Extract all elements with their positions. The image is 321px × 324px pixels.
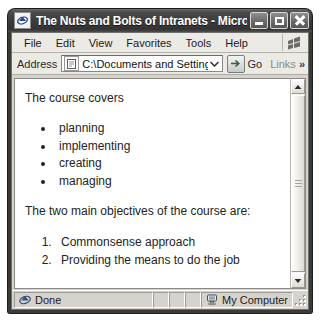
address-label: Address — [17, 58, 57, 70]
document-body: The course covers planning implementing … — [14, 78, 290, 289]
menu-item-edit[interactable]: Edit — [49, 36, 82, 50]
list-item: planning — [55, 120, 284, 138]
window-title: The Nuts and Bolts of Intranets - Micros… — [36, 14, 247, 28]
internet-explorer-icon — [18, 293, 32, 307]
chevron-down-icon[interactable] — [208, 56, 221, 71]
go-arrow-icon — [227, 55, 245, 73]
list-item: Commonsense approach — [55, 233, 284, 251]
minimize-button[interactable] — [250, 12, 268, 29]
scrollbar-grip — [295, 178, 302, 189]
status-message-pane: Done — [14, 292, 153, 308]
chevron-right-double-icon: » — [299, 60, 305, 68]
menu-item-file[interactable]: File — [17, 36, 49, 50]
go-button[interactable]: Go — [227, 55, 263, 73]
scroll-up-button[interactable] — [291, 79, 305, 94]
menu-item-help[interactable]: Help — [218, 36, 255, 50]
links-label: Links — [270, 58, 296, 70]
status-pane-2 — [169, 292, 185, 308]
page-icon — [64, 56, 79, 71]
menu-item-tools[interactable]: Tools — [179, 36, 219, 50]
spacer — [25, 110, 284, 120]
list-item: managing — [55, 173, 284, 191]
menu-divider — [282, 34, 283, 51]
spacer — [25, 223, 284, 233]
scroll-down-button[interactable] — [291, 273, 305, 288]
windows-flag-icon — [284, 34, 304, 51]
links-button[interactable]: Links » — [270, 58, 305, 70]
list-item: Providing the means to do the job — [55, 251, 284, 269]
course-topics-list: planning implementing creating managing — [25, 120, 284, 190]
scrollbar-track[interactable] — [291, 94, 305, 273]
security-zone-pane[interactable]: My Computer — [201, 292, 293, 308]
caret-up-icon — [294, 84, 302, 90]
caret-down-icon — [294, 278, 302, 284]
security-zone-text: My Computer — [222, 294, 288, 306]
my-computer-icon — [205, 293, 219, 307]
window-controls — [250, 12, 309, 29]
list-item: implementing — [55, 138, 284, 156]
status-text: Done — [35, 294, 61, 306]
intro-paragraph: The course covers — [25, 90, 284, 106]
status-pane-3 — [185, 292, 201, 308]
close-button[interactable] — [290, 12, 309, 29]
address-bar: Address C:\Documents and Settings\defau — [12, 53, 308, 75]
spacer — [25, 190, 284, 203]
address-value: C:\Documents and Settings\defau — [82, 58, 207, 70]
window-body: File Edit View Favorites Tools Help — [11, 32, 309, 310]
resize-grip[interactable] — [293, 292, 307, 307]
address-input[interactable]: C:\Documents and Settings\defau — [61, 55, 222, 72]
objectives-list: Commonsense approach Providing the means… — [25, 233, 284, 269]
menu-item-view[interactable]: View — [82, 36, 120, 50]
status-pane-1 — [153, 292, 169, 308]
minimize-icon — [255, 22, 263, 25]
maximize-button[interactable] — [270, 12, 288, 29]
menu-bar: File Edit View Favorites Tools Help — [12, 33, 308, 53]
go-label: Go — [248, 58, 263, 70]
menu-item-favorites[interactable]: Favorites — [119, 36, 178, 50]
list-item: creating — [55, 155, 284, 173]
close-icon — [294, 15, 305, 26]
vertical-scrollbar[interactable] — [290, 78, 306, 289]
title-bar[interactable]: The Nuts and Bolts of Intranets - Micros… — [8, 9, 312, 32]
maximize-icon — [275, 17, 284, 25]
content-area: The course covers planning implementing … — [12, 76, 308, 290]
objectives-paragraph: The two main objectives of the course ar… — [25, 203, 284, 219]
internet-explorer-icon[interactable] — [14, 12, 31, 29]
scrollbar-thumb[interactable] — [291, 95, 305, 272]
status-bar: Done My Computer — [12, 290, 308, 309]
browser-window: The Nuts and Bolts of Intranets - Micros… — [8, 9, 312, 313]
